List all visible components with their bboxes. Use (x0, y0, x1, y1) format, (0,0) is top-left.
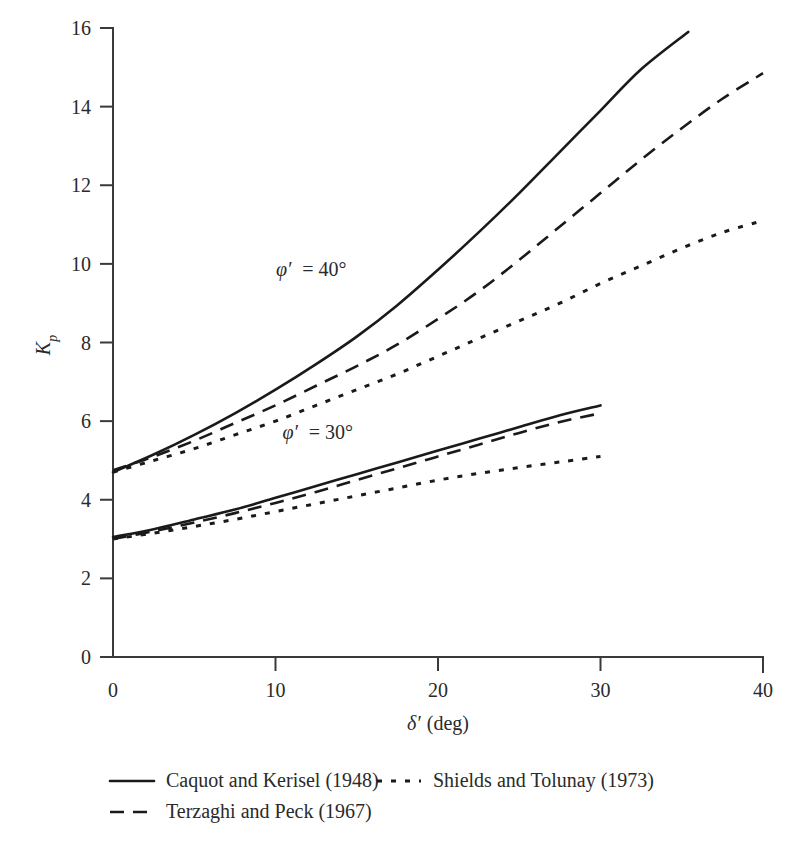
x-tick-label: 40 (753, 679, 773, 701)
x-axis-title-symbol: δ′ (407, 712, 421, 734)
chart-legend: Caquot and Kerisel (1948)Shields and Tol… (110, 769, 654, 823)
legend-label: Caquot and Kerisel (1948) (166, 769, 379, 792)
legend-item: Terzaghi and Peck (1967) (110, 800, 372, 823)
annotation-phi40: φ′ = 40° (276, 258, 347, 281)
annotation-value: = 30° (304, 421, 353, 443)
annotation-symbol: φ′ (282, 421, 298, 444)
legend-item: Shields and Tolunay (1973) (377, 769, 654, 792)
curve-phi40-dashed (113, 73, 763, 470)
x-tick-label: 0 (108, 679, 118, 701)
y-axis-title-subscript: p (45, 335, 60, 343)
axis-titles: δ′(deg) Kp (32, 335, 469, 735)
axes-group (113, 28, 763, 672)
curve-phi40-solid (113, 32, 688, 472)
annotation-phi30: φ′ = 30° (282, 421, 353, 444)
y-tick-label: 4 (81, 489, 91, 511)
y-tick-label: 16 (71, 17, 91, 39)
x-axis-ticks: 010203040 (108, 657, 773, 701)
y-tick-label: 12 (71, 174, 91, 196)
y-axis-title: Kp (32, 335, 60, 356)
y-axis-ticks: 0246810121416 (71, 17, 113, 668)
chart-svg: 0246810121416 010203040 φ′ = 40°φ′ = 30°… (0, 0, 799, 845)
x-axis-title: δ′(deg) (407, 712, 469, 735)
y-tick-label: 0 (81, 646, 91, 668)
annotation-value: = 40° (297, 258, 346, 280)
y-tick-label: 8 (81, 332, 91, 354)
x-axis-title-unit: (deg) (427, 712, 469, 735)
y-tick-label: 10 (71, 253, 91, 275)
legend-label: Shields and Tolunay (1973) (433, 769, 654, 792)
annotation-symbol: φ′ (276, 258, 292, 281)
y-tick-label: 2 (81, 567, 91, 589)
data-curves (113, 32, 763, 539)
legend-label: Terzaghi and Peck (1967) (166, 800, 372, 823)
curve-phi30-solid (113, 405, 601, 537)
y-tick-label: 6 (81, 410, 91, 432)
legend-item: Caquot and Kerisel (1948) (110, 769, 379, 792)
x-tick-label: 10 (266, 679, 286, 701)
x-tick-label: 20 (428, 679, 448, 701)
curve-phi30-dotted (113, 457, 601, 540)
y-tick-label: 14 (71, 96, 91, 118)
chart-figure: 0246810121416 010203040 φ′ = 40°φ′ = 30°… (0, 0, 799, 845)
x-tick-label: 30 (591, 679, 611, 701)
